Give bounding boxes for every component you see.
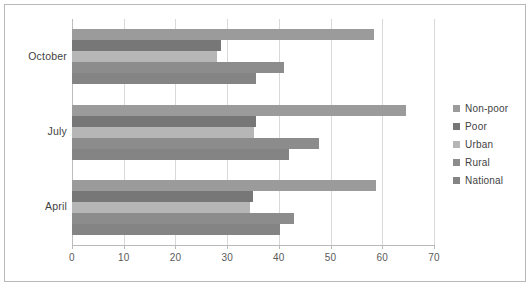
legend-label: Urban bbox=[465, 139, 493, 150]
plot-inner: 010203040506070 bbox=[72, 19, 434, 245]
x-gridline bbox=[434, 19, 435, 245]
plot-area: 010203040506070 bbox=[72, 19, 382, 245]
x-tick-label: 10 bbox=[118, 252, 130, 263]
x-tick-mark bbox=[279, 245, 280, 249]
x-tick-mark bbox=[175, 245, 176, 249]
bar-urban-april bbox=[72, 202, 250, 213]
x-tick-label: 0 bbox=[69, 252, 75, 263]
bar-rural-july bbox=[72, 138, 319, 149]
x-tick-mark bbox=[382, 245, 383, 249]
category-axis-labels: OctoberJulyApril bbox=[5, 19, 67, 245]
legend-swatch-icon bbox=[453, 105, 460, 112]
x-tick-mark bbox=[331, 245, 332, 249]
x-tick-label: 50 bbox=[325, 252, 337, 263]
legend-label: Poor bbox=[465, 121, 487, 132]
legend-item-rural[interactable]: Rural bbox=[453, 154, 529, 171]
x-tick-mark bbox=[72, 245, 73, 249]
legend-swatch-icon bbox=[453, 177, 460, 184]
legend-swatch-icon bbox=[453, 159, 460, 166]
bar-national-october bbox=[72, 73, 256, 84]
category-label-april: April bbox=[45, 200, 67, 212]
bar-poor-july bbox=[72, 116, 256, 127]
legend-item-non-poor[interactable]: Non-poor bbox=[453, 100, 529, 117]
category-label-july: July bbox=[48, 125, 67, 137]
x-tick-mark bbox=[124, 245, 125, 249]
x-tick-label: 60 bbox=[377, 252, 389, 263]
bar-rural-october bbox=[72, 62, 284, 73]
legend-swatch-icon bbox=[453, 123, 460, 130]
legend-swatch-icon bbox=[453, 141, 460, 148]
x-gridline bbox=[279, 19, 280, 245]
bar-non-poor-october bbox=[72, 29, 374, 40]
bar-poor-april bbox=[72, 191, 253, 202]
legend-label: Rural bbox=[465, 157, 490, 168]
chart-frame: OctoberJulyApril 010203040506070 Non-poo… bbox=[4, 4, 526, 282]
bar-urban-july bbox=[72, 127, 254, 138]
x-tick-mark bbox=[227, 245, 228, 249]
bar-national-july bbox=[72, 149, 289, 160]
x-tick-label: 40 bbox=[273, 252, 285, 263]
x-tick-mark bbox=[434, 245, 435, 249]
bar-national-april bbox=[72, 224, 280, 235]
bar-urban-october bbox=[72, 51, 217, 62]
category-label-october: October bbox=[28, 50, 67, 62]
legend-item-poor[interactable]: Poor bbox=[453, 118, 529, 135]
x-gridline bbox=[382, 19, 383, 245]
chart-legend: Non-poorPoorUrbanRuralNational bbox=[453, 100, 529, 190]
x-axis-line bbox=[72, 245, 434, 246]
bar-poor-october bbox=[72, 40, 221, 51]
x-tick-label: 70 bbox=[428, 252, 440, 263]
legend-label: National bbox=[465, 175, 503, 186]
x-tick-label: 20 bbox=[170, 252, 182, 263]
x-tick-label: 30 bbox=[221, 252, 233, 263]
bar-non-poor-july bbox=[72, 105, 406, 116]
legend-item-urban[interactable]: Urban bbox=[453, 136, 529, 153]
bar-non-poor-april bbox=[72, 180, 376, 191]
bar-rural-april bbox=[72, 213, 294, 224]
x-gridline bbox=[331, 19, 332, 245]
legend-label: Non-poor bbox=[465, 103, 508, 114]
legend-item-national[interactable]: National bbox=[453, 172, 529, 189]
